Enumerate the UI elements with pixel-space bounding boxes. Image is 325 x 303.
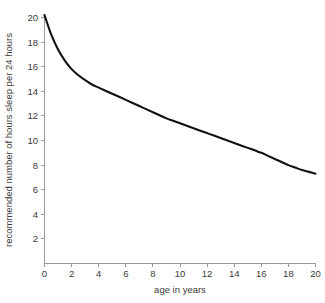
sleep-chart-figure: 20 18 16 14 12 10 8 6 4 2 0 2 4 6 8 10 1… bbox=[0, 0, 325, 303]
chart-background bbox=[0, 0, 325, 303]
x-tick-label: 14 bbox=[229, 268, 240, 279]
x-tick-label: 16 bbox=[256, 268, 267, 279]
x-tick-label: 4 bbox=[96, 268, 101, 279]
y-tick-label: 14 bbox=[27, 86, 38, 97]
x-tick-label: 10 bbox=[175, 268, 186, 279]
x-tick-label: 0 bbox=[42, 268, 47, 279]
x-tick-label: 6 bbox=[123, 268, 128, 279]
y-tick-label: 10 bbox=[27, 135, 38, 146]
y-tick-label: 4 bbox=[33, 209, 38, 220]
x-tick-label: 8 bbox=[150, 268, 155, 279]
y-axis-title: recommended number of hours sleep per 24… bbox=[3, 33, 14, 247]
x-tick-label: 12 bbox=[202, 268, 213, 279]
y-tick-label: 18 bbox=[27, 37, 38, 48]
x-tick-label: 2 bbox=[69, 268, 74, 279]
y-tick-label: 2 bbox=[33, 233, 38, 244]
y-tick-label: 12 bbox=[27, 110, 38, 121]
y-tick-label: 20 bbox=[27, 12, 38, 23]
y-tick-label: 6 bbox=[33, 184, 38, 195]
x-axis-title: age in years bbox=[154, 284, 206, 295]
y-tick-label: 8 bbox=[33, 160, 38, 171]
y-tick-label: 16 bbox=[27, 61, 38, 72]
chart-canvas: 20 18 16 14 12 10 8 6 4 2 0 2 4 6 8 10 1… bbox=[0, 0, 325, 303]
x-tick-label: 20 bbox=[310, 268, 321, 279]
x-tick-label: 18 bbox=[283, 268, 294, 279]
